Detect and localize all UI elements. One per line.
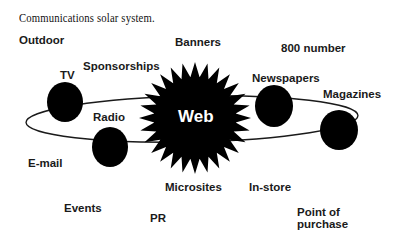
label-outdoor: Outdoor xyxy=(19,34,64,46)
diagram-title: Communications solar system. xyxy=(19,10,155,26)
label-800-number: 800 number xyxy=(281,42,346,54)
planet-label-magazines: Magazines xyxy=(323,88,381,100)
label-email: E-mail xyxy=(28,157,63,169)
label-pr: PR xyxy=(150,212,166,224)
planet-label-radio: Radio xyxy=(93,111,125,123)
label-point-of-purchase-line1: Point of xyxy=(297,206,340,218)
label-events: Events xyxy=(64,202,102,214)
planet-newspapers xyxy=(255,85,293,127)
label-banners: Banners xyxy=(175,36,221,48)
planet-label-newspapers: Newspapers xyxy=(252,72,320,84)
label-instore: In-store xyxy=(249,181,291,193)
sun-label: Web xyxy=(178,107,214,127)
planet-radio xyxy=(92,127,128,167)
solar-system-diagram: Communications solar system. Web TV Radi… xyxy=(0,0,401,243)
label-point-of-purchase-line2: purchase xyxy=(297,218,348,230)
label-sponsorships: Sponsorships xyxy=(83,60,160,72)
planet-label-tv: TV xyxy=(60,69,75,81)
planet-tv xyxy=(47,82,83,122)
planet-magazines xyxy=(320,110,358,150)
label-microsites: Microsites xyxy=(165,181,222,193)
